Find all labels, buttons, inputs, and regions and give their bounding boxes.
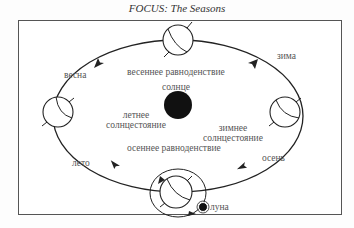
label-summer: лето (72, 158, 90, 168)
label-winter-solstice: зимнее солнцестояние (199, 123, 267, 143)
label-winter-solstice-line1: зимнее (199, 123, 267, 133)
label-autumnal-equinox: осеннее равноденствие (127, 143, 221, 153)
arrow-icon (248, 59, 258, 69)
moon-icon (199, 203, 208, 212)
label-sun: солнце (162, 82, 190, 92)
label-winter-solstice-line2: солнцестояние (199, 133, 267, 143)
earth-globe-right (269, 97, 301, 127)
arrow-icon (109, 160, 120, 170)
label-vernal-equinox: весеннее равноденствие (127, 67, 225, 77)
label-summer-solstice-line1: летнее (102, 110, 170, 120)
label-spring: весна (64, 70, 86, 80)
label-winter: зима (277, 51, 296, 61)
earth-globe-left (42, 97, 74, 127)
label-summer-solstice-line2: солнцестояние (102, 120, 170, 130)
label-summer-solstice: летнее солнцестояние (102, 110, 170, 130)
label-moon: луна (210, 202, 229, 212)
label-autumn: осень (262, 153, 285, 163)
arrow-icon (236, 162, 247, 171)
earth-globe-bottom (160, 176, 192, 208)
seasons-diagram (0, 0, 354, 228)
earth-globe-top (163, 22, 193, 57)
